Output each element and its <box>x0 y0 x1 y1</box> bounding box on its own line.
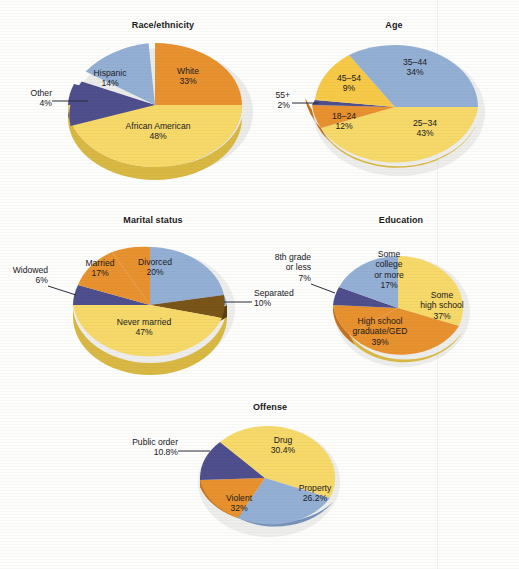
callout-55plus-pct: 2% <box>278 100 290 110</box>
callout-55plus-name: 55+ <box>275 90 290 100</box>
slice-label-property-name: Property <box>299 483 331 493</box>
slice-label-hispanic: Hispanic 14% <box>79 68 141 89</box>
slice-label-violent-name: Violent <box>226 493 252 503</box>
slice-label-hsgrad-l1: High school <box>358 316 403 326</box>
slice-label-1824-name: 18–24 <box>332 111 356 121</box>
slice-label-college-l1: Some <box>378 249 400 259</box>
slice-label-hsgrad-pct: 39% <box>371 337 388 347</box>
slice-label-college-l2: college <box>375 259 402 269</box>
slice-label-2534-pct: 43% <box>416 128 433 138</box>
slice-label-hispanic-name: Hispanic <box>94 68 127 78</box>
chart-title-education: Education <box>366 215 436 225</box>
callout-other-race: Other 4% <box>6 88 52 109</box>
slice-label-married-pct: 17% <box>91 268 108 278</box>
chart-marital-status: Marital status Di <box>0 195 290 385</box>
callout-public-order-name: Public order <box>132 437 178 447</box>
figure-canvas: Race/ethnicity White 33% <box>0 0 519 569</box>
slice-label-some-college: Some college or more 17% <box>358 249 420 291</box>
slice-label-african-american: African American 48% <box>103 121 213 142</box>
chart-title-age: Age <box>369 20 419 30</box>
slice-label-violent: Violent 32% <box>208 493 270 514</box>
slice-label-4554-pct: 9% <box>343 83 355 93</box>
slice-label-somehs-pct: 37% <box>433 311 450 321</box>
leader-line-widowed-marital <box>48 286 76 295</box>
slice-label-married: Married 17% <box>69 258 131 279</box>
slice-label-married-name: Married <box>85 258 114 268</box>
callout-eighth-l1: 8th grade <box>275 252 311 262</box>
slice-label-college-l3: or more <box>374 270 404 280</box>
slice-label-white-name: White <box>177 66 199 76</box>
callout-widowed-marital: Widowed 6% <box>0 265 48 286</box>
callout-widowed-pct: 6% <box>36 275 48 285</box>
chart-age: Age 35–44 34% 25–34 4 <box>259 0 519 190</box>
chart-race-ethnicity: Race/ethnicity White 33% <box>0 0 260 190</box>
chart-title-marital: Marital status <box>113 215 193 225</box>
slice-label-hispanic-pct: 14% <box>101 78 118 88</box>
slice-label-african-name: African American <box>126 121 191 131</box>
slice-label-2534-name: 25–34 <box>413 118 437 128</box>
callout-8th-grade-education: 8th grade or less 7% <box>249 252 311 283</box>
slice-label-3544-name: 35–44 <box>403 57 427 67</box>
callout-widowed-name: Widowed <box>13 265 48 275</box>
slice-label-hsgrad-l2: graduate/GED <box>353 326 408 336</box>
slice-label-never-name: Never married <box>117 317 171 327</box>
slice-label-white-pct: 33% <box>179 76 196 86</box>
slice-label-1824-pct: 12% <box>335 121 352 131</box>
chart-education: Education Some high school 37% <box>259 195 519 385</box>
slice-label-drug-name: Drug <box>274 435 293 445</box>
slice-label-25-34: 25–34 43% <box>395 118 455 139</box>
slice-label-hs-grad: High school graduate/GED 39% <box>337 316 423 347</box>
slice-label-divorced-pct: 20% <box>146 267 163 277</box>
slice-label-never-married: Never married 47% <box>96 317 192 338</box>
chart-offense: Offense Drug 30.4% Property 26 <box>130 380 410 569</box>
slice-label-college-pct: 17% <box>380 280 397 290</box>
slice-label-4554-name: 45–54 <box>337 73 361 83</box>
leader-line-8thgrade-education <box>311 284 335 293</box>
callout-public-order-offense: Public order 10.8% <box>118 437 178 458</box>
callout-eighth-pct: 7% <box>299 273 311 283</box>
callout-other-name: Other <box>31 88 53 98</box>
slice-label-35-44: 35–44 34% <box>385 57 445 78</box>
slice-label-18-24: 18–24 12% <box>316 111 372 132</box>
slice-label-3544-pct: 34% <box>406 67 423 77</box>
slice-label-african-pct: 48% <box>149 131 166 141</box>
slice-label-somehs-l2: high school <box>420 300 463 310</box>
callout-public-order-pct: 10.8% <box>154 447 178 457</box>
callout-other-pct: 4% <box>40 98 52 108</box>
callout-55plus-age: 55+ 2% <box>254 90 290 111</box>
slice-label-somehs-l1: Some <box>431 290 453 300</box>
slice-label-divorced-name: Divorced <box>138 257 172 267</box>
slice-label-divorced: Divorced 20% <box>124 257 186 278</box>
slice-label-white: White 33% <box>158 66 218 87</box>
slice-label-violent-pct: 32% <box>230 503 247 513</box>
slice-label-property: Property 26.2% <box>282 483 348 504</box>
slice-label-45-54: 45–54 9% <box>321 73 377 94</box>
slice-label-property-pct: 26.2% <box>303 493 327 503</box>
slice-label-drug-pct: 30.4% <box>271 445 295 455</box>
chart-title-offense: Offense <box>240 402 300 412</box>
slice-label-drug: Drug 30.4% <box>253 435 313 456</box>
chart-title-race: Race/ethnicity <box>118 20 208 30</box>
slice-label-never-pct: 47% <box>135 327 152 337</box>
callout-eighth-l2: or less <box>286 262 311 272</box>
